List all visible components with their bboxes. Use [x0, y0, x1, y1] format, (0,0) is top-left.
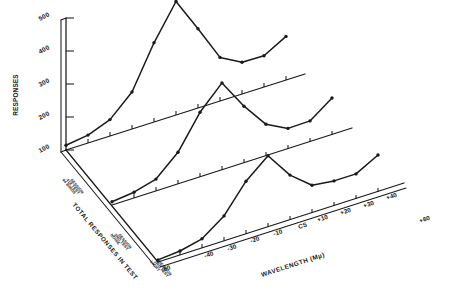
x-tick-label-m40: -40 [203, 249, 215, 259]
data-curves-group [64, 0, 379, 262]
x-tick-label-p30: +30 [362, 199, 375, 209]
y-axis-title: RESPONSES [12, 74, 19, 116]
y-tick-label-200: 200 [37, 109, 50, 121]
data-point-middle--20 [176, 151, 179, 154]
data-point-middle-+20 [264, 123, 267, 126]
data-point-back-+30 [240, 61, 243, 64]
x-tick-label-p20: +20 [339, 206, 352, 216]
data-point-middle-+60 [330, 96, 333, 99]
data-point-back--20 [130, 90, 133, 93]
data-point-front--10 [244, 180, 247, 183]
data-point-front-+60 [376, 153, 379, 156]
curve-back [66, 2, 286, 146]
data-point-back--60 [64, 144, 67, 147]
data-point-middle--30 [154, 177, 157, 180]
figure-container: 500 400 300 200 100 RESPONSES [0, 0, 459, 295]
data-point-front-CS [266, 154, 269, 157]
data-point-middle-+30 [286, 127, 289, 130]
baseline-middle [112, 128, 352, 205]
data-point-front--30 [200, 237, 203, 240]
x-tick-label-cs: CS [297, 221, 308, 230]
depth-axis: TOTAL RESPONSES IN TEST [61, 150, 158, 281]
data-point-middle--60 [110, 200, 113, 203]
x-tick-label-p10: +10 [316, 213, 329, 223]
data-point-front-+20 [310, 184, 313, 187]
row-label-back: 94 BIRDS 418 TEST SESSION [61, 177, 85, 195]
y-tick-label-500: 500 [37, 10, 50, 22]
data-point-back--40 [86, 133, 89, 136]
data-point-front--40 [178, 249, 181, 252]
x-tick-label-m10: -10 [272, 227, 284, 237]
data-point-front--60 [156, 258, 159, 261]
x-tick-label-m30: -30 [226, 242, 238, 252]
data-point-middle--40 [132, 191, 135, 194]
data-point-front-+10 [288, 173, 291, 176]
x-tick-label-p40: +40 [385, 191, 398, 201]
x-axis-title: WAVELENGTH (Mµ) [260, 251, 326, 279]
data-point-middle-+40 [308, 119, 311, 122]
baseline-front [158, 183, 406, 267]
data-point-back-+10 [196, 27, 199, 30]
y-axis: 500 400 300 200 100 RESPONSES [12, 10, 74, 154]
y-tick-label-100: 100 [37, 142, 50, 154]
data-point-back-+60 [284, 35, 287, 38]
data-point-back--10 [152, 41, 155, 44]
data-point-front--20 [222, 214, 225, 217]
x-tick-label-p60: +60 [418, 214, 431, 224]
data-point-middle-+10 [242, 105, 245, 108]
data-point-middle--10 [198, 111, 201, 114]
data-point-middle-CS [220, 81, 223, 84]
data-point-back-+20 [218, 56, 221, 59]
data-point-back--30 [108, 118, 111, 121]
y-tick-label-300: 300 [37, 76, 50, 88]
data-point-back-+40 [262, 54, 265, 57]
row-label-front: LIGHT 3RD TEST SESSION [149, 259, 173, 278]
y-tick-label-400: 400 [37, 43, 50, 55]
data-point-front-+30 [332, 179, 335, 182]
data-point-front-+40 [354, 172, 357, 175]
y-axis-ticks [66, 18, 74, 150]
